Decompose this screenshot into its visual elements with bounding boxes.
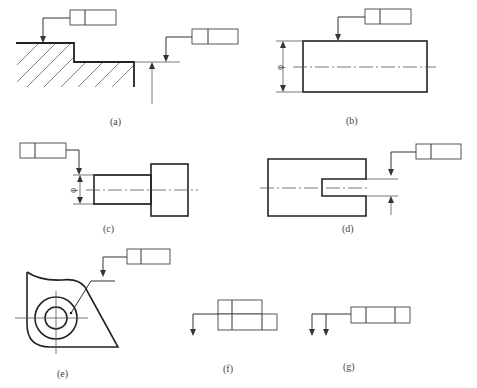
tolerance-frame [20,143,66,158]
panel-d: (d) [260,144,461,235]
tolerance-frame [416,144,461,159]
panel-c: φ (c) [20,143,198,235]
arrow-icon [388,169,394,176]
tolerance-frame-top [218,300,262,314]
arrow-icon [335,34,341,41]
caption-f: (f) [223,363,233,375]
arrow-icon [149,62,155,69]
caption-d: (d) [342,223,354,235]
arrow-icon [40,36,46,43]
panel-e: (e) [15,249,170,380]
arrow-icon [163,55,169,62]
diameter-symbol: φ [69,188,78,193]
panel-a: (a) [16,10,238,128]
tolerance-figures: (a) φ (b) φ (c) [0,0,477,388]
caption-c: (c) [103,223,114,235]
tolerance-frame [192,29,238,44]
panel-g: (g) [309,307,410,373]
panel-f: (f) [190,300,277,375]
caption-b: (b) [346,115,358,127]
tolerance-frame-bottom [218,314,277,330]
caption-g: (g) [343,361,355,373]
shaft-small [94,175,151,204]
arrow-icon [323,329,329,336]
tolerance-frame [351,307,410,323]
tolerance-frame [365,9,411,24]
arrow-icon [190,329,196,336]
arrow-icon [100,270,106,277]
tolerance-frame [127,249,170,264]
panel-b: φ (b) [276,9,436,127]
arrow-icon [76,168,82,175]
slotted-part [268,159,367,216]
caption-e: (e) [57,368,68,380]
part-outline [27,272,118,347]
caption-a: (a) [110,116,121,128]
part-outline [303,41,427,92]
diameter-symbol: φ [276,65,285,70]
hatching [17,44,133,87]
arrow-icon [309,329,315,336]
tolerance-frame [70,10,116,25]
